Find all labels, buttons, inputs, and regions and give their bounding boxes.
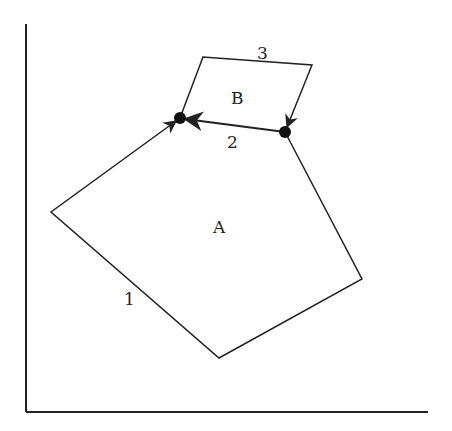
diagram-canvas: A B 1 2 3 [0,0,452,431]
path-3 [180,57,312,127]
path-3-label: 3 [257,43,268,63]
path-1-label: 1 [124,289,135,309]
left-junction-point [174,112,186,124]
right-junction-point [279,126,291,138]
path-1 [51,121,362,358]
region-b-label: B [231,88,244,108]
path-2 [185,119,285,132]
region-a-label: A [212,217,226,237]
path-2-label: 2 [227,132,238,152]
